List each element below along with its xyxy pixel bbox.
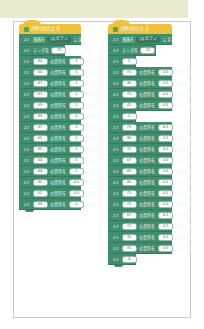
value-field[interactable]: 70 <box>122 245 137 252</box>
beats-field[interactable]: 0.5 <box>158 146 173 153</box>
beats-field[interactable]: 0.5 <box>158 69 173 76</box>
beats-field[interactable]: 1 <box>69 91 84 98</box>
music-block-note[interactable]: ♪♪67の音符を0.5拍鳴らす <box>108 210 172 221</box>
beats-field[interactable]: 1 <box>69 157 84 164</box>
value-field[interactable]: 72 <box>122 146 137 153</box>
beats-field[interactable]: 0.5 <box>158 201 173 208</box>
value-field[interactable]: 72 <box>122 91 137 98</box>
beats-field[interactable]: 1 <box>69 102 84 109</box>
beats-field[interactable]: 2 <box>69 113 84 120</box>
music-block-rest[interactable]: ♪♪2拍休む <box>108 111 136 122</box>
value-field[interactable]: 2 <box>122 58 137 65</box>
music-block-note[interactable]: ♪♪72の音符を0.5拍鳴らす <box>108 89 172 100</box>
value-field[interactable]: 62 <box>33 179 48 186</box>
music-block-tempo[interactable]: ♪♪テンポを72にする <box>19 45 65 56</box>
value-field[interactable]: 41 <box>122 102 137 109</box>
value-field[interactable]: 69 <box>122 168 137 175</box>
value-field[interactable]: 71 <box>122 201 137 208</box>
beats-field[interactable]: 2 <box>69 124 84 131</box>
value-field[interactable]: 62 <box>33 190 48 197</box>
beats-field[interactable]: 0.5 <box>158 245 173 252</box>
music-block-note[interactable]: ♪♪67の音符を1拍鳴らす <box>19 78 81 89</box>
beats-field[interactable]: 1 <box>69 80 84 87</box>
value-field[interactable]: 67 <box>122 212 137 219</box>
value-field[interactable]: 67 <box>33 91 48 98</box>
music-block-note[interactable]: ♪♪70の音符を0.5拍鳴らす <box>108 232 172 243</box>
block-canvas[interactable]: が押されたとき♪♪楽器を(1) ピアノにする♪♪テンポを72にする♪♪60の音符… <box>13 21 191 318</box>
value-field[interactable]: 69 <box>33 102 48 109</box>
value-field[interactable]: 64 <box>33 168 48 175</box>
music-block-note[interactable]: ♪♪62の音符を0.5拍鳴らす <box>19 188 81 199</box>
beats-field[interactable]: 0.5 <box>158 234 173 241</box>
event-hat-block[interactable]: が押されたとき <box>19 24 81 34</box>
value-field[interactable]: 2 <box>122 113 137 120</box>
value-field[interactable]: 72 <box>51 47 66 54</box>
beats-field[interactable]: 0.5 <box>158 179 173 186</box>
music-block-note[interactable]: ♪♪64の音符を1拍鳴らす <box>19 155 81 166</box>
value-field[interactable]: 60 <box>33 58 48 65</box>
beats-field[interactable]: 0.5 <box>158 135 173 142</box>
music-block-inst[interactable]: ♪♪楽器を(1) ピアノにする <box>108 34 172 45</box>
music-block-note[interactable]: ♪♪72の音符を0.5拍鳴らす <box>108 221 172 232</box>
beats-field[interactable]: 0.5 <box>158 91 173 98</box>
music-block-note[interactable]: ♪♪64の音符を1拍鳴らす <box>19 166 81 177</box>
beats-field[interactable]: 0.5 <box>158 190 173 197</box>
music-block-note[interactable]: ♪♪69の音符を1拍鳴らす <box>19 100 81 111</box>
beats-field[interactable]: 0.5 <box>158 223 173 230</box>
value-field[interactable]: 65 <box>33 146 48 153</box>
music-block-note[interactable]: ♪♪70の音符を0.5拍鳴らす <box>108 243 172 254</box>
instrument-dropdown[interactable]: (1) ピアノ <box>47 36 71 43</box>
music-block-note[interactable]: ♪♪71の音符を0.5拍鳴らす <box>108 67 172 78</box>
beats-field[interactable]: 0.5 <box>158 157 173 164</box>
music-block-note[interactable]: ♪♪69の音符を0.5拍鳴らす <box>108 166 172 177</box>
music-block-note[interactable]: ♪♪67の音符を0.5拍鳴らす <box>108 155 172 166</box>
music-block-note[interactable]: ♪♪60の音符を1拍鳴らす <box>19 67 81 78</box>
value-field[interactable]: 71 <box>122 190 137 197</box>
instrument-dropdown[interactable]: (1) ピアノ <box>136 36 160 43</box>
music-block-note[interactable]: ♪♪60の音符を1拍鳴らす <box>19 56 81 67</box>
beats-field[interactable]: 1 <box>69 58 84 65</box>
value-field[interactable]: 36 <box>122 135 137 142</box>
music-block-note[interactable]: ♪♪36の音符を0.5拍鳴らす <box>108 78 172 89</box>
music-block-note[interactable]: ♪♪40の音符を0.5拍鳴らす <box>108 177 172 188</box>
value-field[interactable]: 70 <box>122 234 137 241</box>
value-field[interactable]: 71 <box>122 124 137 131</box>
value-field[interactable]: 64 <box>33 157 48 164</box>
script-stack-left[interactable]: が押されたとき♪♪楽器を(1) ピアノにする♪♪テンポを72にする♪♪60の音符… <box>19 24 81 212</box>
value-field[interactable]: 72 <box>140 47 155 54</box>
beats-field[interactable]: 2 <box>69 201 84 208</box>
beats-field[interactable]: 1 <box>69 146 84 153</box>
value-field[interactable]: 71 <box>122 69 137 76</box>
beats-field[interactable]: 1 <box>69 168 84 175</box>
music-block-note[interactable]: ♪♪71の音符を0.5拍鳴らす <box>108 122 172 133</box>
music-block-rest[interactable]: ♪♪4拍休む <box>108 254 136 265</box>
beats-field[interactable]: 0.5 <box>69 179 84 186</box>
value-field[interactable]: 60 <box>33 69 48 76</box>
music-block-note[interactable]: ♪♪69の音符を2拍鳴らす <box>19 111 81 122</box>
value-field[interactable]: 65 <box>33 135 48 142</box>
value-field[interactable]: 4 <box>122 256 137 263</box>
value-field[interactable]: 60 <box>33 201 48 208</box>
music-block-note[interactable]: ♪♪71の音符を0.5拍鳴らす <box>108 199 172 210</box>
music-block-note[interactable]: ♪♪62の音符を0.5拍鳴らす <box>19 177 81 188</box>
beats-field[interactable]: 0.5 <box>158 124 173 131</box>
music-block-note[interactable]: ♪♪60の音符を2拍鳴らす <box>19 199 81 210</box>
value-field[interactable]: 36 <box>122 80 137 87</box>
value-field[interactable]: 67 <box>33 80 48 87</box>
music-block-note[interactable]: ♪♪72の音符を0.5拍鳴らす <box>108 144 172 155</box>
beats-field[interactable]: 0.5 <box>158 212 173 219</box>
music-block-tempo[interactable]: ♪♪テンポを72にする <box>108 45 156 56</box>
music-block-note[interactable]: ♪♪41の音符を0.5拍鳴らす <box>108 100 172 111</box>
beats-field[interactable]: 0.5 <box>158 168 173 175</box>
music-block-note[interactable]: ♪♪65の音符を1拍鳴らす <box>19 144 81 155</box>
beats-field[interactable]: 0.5 <box>69 190 84 197</box>
value-field[interactable]: 72 <box>122 223 137 230</box>
music-block-note[interactable]: ♪♪71の音符を0.5拍鳴らす <box>108 188 172 199</box>
value-field[interactable]: 40 <box>122 179 137 186</box>
value-field[interactable]: 67 <box>122 157 137 164</box>
music-block-note[interactable]: ♪♪65の音符を1拍鳴らす <box>19 133 81 144</box>
beats-field[interactable]: 1 <box>69 135 84 142</box>
script-stack-right[interactable]: が押されたとき♪♪楽器を(1) ピアノにする♪♪テンポを72にする♪♪2拍休む♪… <box>108 24 172 267</box>
event-hat-block[interactable]: が押されたとき <box>108 24 172 34</box>
music-block-inst[interactable]: ♪♪楽器を(1) ピアノにする <box>19 34 81 45</box>
